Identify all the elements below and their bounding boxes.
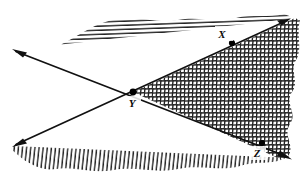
arrowhead-upper-left [12, 49, 27, 58]
point-X-label: X [217, 28, 226, 40]
point-Y-dot [130, 89, 137, 96]
point-X[interactable]: X [215, 26, 235, 46]
figure-canvas: X Y Z [0, 0, 304, 173]
point-Z-dot [259, 140, 265, 146]
point-Z-label: Z [253, 147, 261, 159]
geometry-figure: X Y Z [0, 0, 304, 173]
